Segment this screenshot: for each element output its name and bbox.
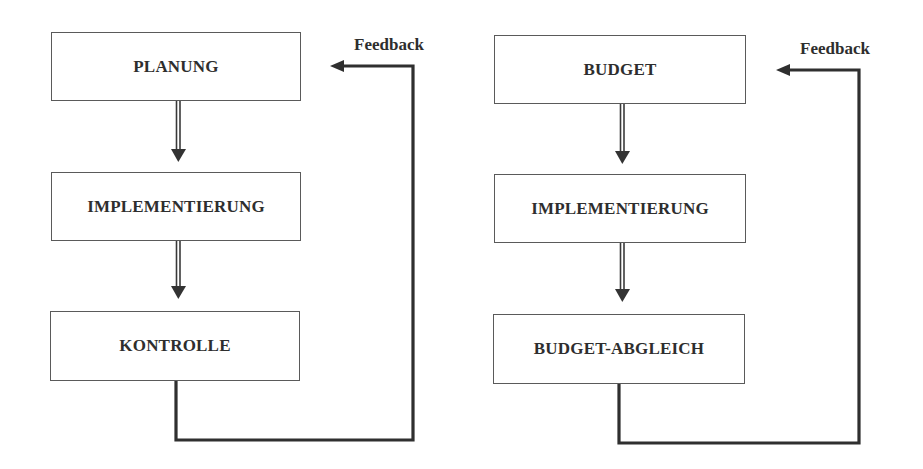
step-box-implementierung: IMPLEMENTIERUNG [494,174,746,243]
step-box-budget-abgleich: BUDGET-ABGLEICH [493,314,745,384]
arrow-budget-to-implementierung [615,103,630,164]
step-box-kontrolle: KONTROLLE [50,311,300,381]
step-box-budget: BUDGET [494,35,746,104]
step-label: IMPLEMENTIERUNG [87,197,265,217]
step-label: PLANUNG [133,57,218,77]
step-box-implementierung: IMPLEMENTIERUNG [51,172,301,241]
feedback-label-left: Feedback [354,35,424,55]
arrow-implementierung-to-kontrolle [171,240,186,299]
diagram-canvas: PLANUNG IMPLEMENTIERUNG KONTROLLE Feedba… [0,0,923,469]
step-box-planung: PLANUNG [51,32,301,101]
arrow-planung-to-implementierung [171,100,186,162]
step-label: BUDGET-ABGLEICH [534,339,705,359]
step-label: BUDGET [584,60,657,80]
feedback-label-right: Feedback [800,39,870,59]
feedback-loop-left [176,60,413,440]
arrow-implementierung-to-budget-abgleich [615,242,630,302]
step-label: IMPLEMENTIERUNG [531,199,709,219]
step-label: KONTROLLE [119,336,230,356]
feedback-loop-right [619,64,859,443]
